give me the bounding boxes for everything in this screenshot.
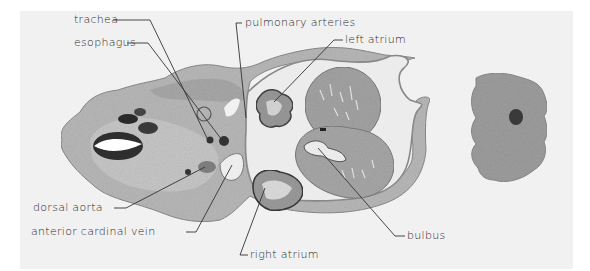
label-anterior-cardinal-vein: anterior cardinal vein: [31, 225, 155, 238]
label-trachea: trachea: [74, 13, 118, 26]
label-esophagus: esophagus: [74, 36, 136, 49]
separate-tissue-lobe: [472, 73, 548, 181]
label-bulbus: bulbus: [407, 229, 446, 242]
left-atrium-shape: [256, 90, 293, 127]
label-pulmonary-arteries: pulmonary arteries: [245, 16, 356, 29]
label-left-atrium: left atrium: [345, 33, 406, 46]
label-right-atrium: right atrium: [250, 248, 319, 261]
label-dorsal-aorta: dorsal aorta: [33, 201, 103, 214]
